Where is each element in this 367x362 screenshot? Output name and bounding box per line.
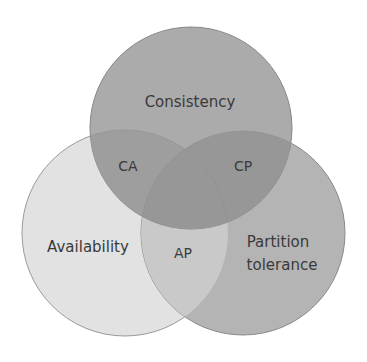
ap-label: AP [174, 245, 192, 261]
cp-label: CP [234, 158, 252, 174]
consistency-label: Consistency [145, 93, 236, 111]
ca-label: CA [118, 158, 138, 174]
cap-venn-diagram: Consistency CA CP Availability AP Partit… [0, 0, 367, 362]
partition-label-line2: tolerance [247, 256, 318, 274]
partition-label-line1: Partition [247, 233, 310, 251]
availability-label: Availability [47, 238, 129, 256]
